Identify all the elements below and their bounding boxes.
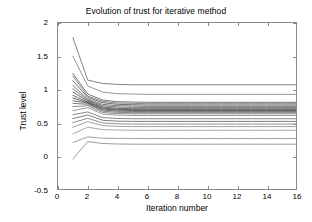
series-lines — [58, 23, 296, 189]
x-tick-mark-top — [148, 22, 149, 26]
x-tick-label: 10 — [203, 192, 212, 201]
series-line — [73, 76, 296, 104]
series-line — [73, 56, 296, 94]
y-tick-mark-right — [293, 157, 297, 158]
x-tick-mark-top — [268, 22, 269, 26]
y-tick-label: 2 — [44, 18, 48, 27]
page-title: Evolution of trust for iterative method — [0, 6, 312, 16]
series-line — [73, 137, 296, 143]
x-tick-mark-top — [178, 22, 179, 26]
x-tick-mark — [238, 186, 239, 190]
y-tick-mark-right — [293, 23, 297, 24]
figure-canvas: Evolution of trust for iterative method … — [0, 0, 312, 222]
x-tick-mark — [268, 186, 269, 190]
x-tick-mark-top — [238, 22, 239, 26]
series-line — [73, 122, 296, 128]
x-tick-label: 12 — [233, 192, 242, 201]
x-tick-mark — [58, 186, 59, 190]
y-tick-mark-right — [293, 57, 297, 58]
plot-area — [57, 22, 297, 190]
y-tick-label: -0.5 — [34, 186, 48, 195]
y-tick-mark-right — [293, 90, 297, 91]
y-tick-mark — [57, 124, 61, 125]
x-tick-mark — [178, 186, 179, 190]
x-tick-label: 6 — [145, 192, 149, 201]
series-line — [73, 127, 296, 134]
x-tick-mark-top — [208, 22, 209, 26]
series-line — [73, 73, 296, 102]
series-line — [73, 38, 296, 85]
y-tick-label: 0.5 — [37, 118, 48, 127]
x-tick-label: 0 — [55, 192, 59, 201]
x-tick-mark — [208, 186, 209, 190]
x-tick-mark-top — [88, 22, 89, 26]
x-axis-label: Iteration number — [57, 203, 297, 213]
y-tick-label: 0 — [44, 152, 48, 161]
x-tick-mark — [88, 186, 89, 190]
y-tick-mark-right — [293, 124, 297, 125]
x-tick-mark-top — [118, 22, 119, 26]
y-tick-mark — [57, 57, 61, 58]
y-tick-mark — [57, 157, 61, 158]
y-tick-label: 1 — [44, 85, 48, 94]
y-tick-label: 1.5 — [37, 51, 48, 60]
y-tick-mark — [57, 23, 61, 24]
x-tick-label: 14 — [263, 192, 272, 201]
y-axis-label: Trust level — [18, 61, 28, 161]
y-tick-mark — [57, 90, 61, 91]
x-tick-label: 4 — [115, 192, 119, 201]
x-tick-label: 2 — [85, 192, 89, 201]
series-line — [73, 142, 296, 160]
x-tick-label: 16 — [293, 192, 302, 201]
x-tick-mark — [118, 186, 119, 190]
series-line — [73, 81, 296, 105]
x-tick-label: 8 — [175, 192, 179, 201]
x-tick-mark — [148, 186, 149, 190]
